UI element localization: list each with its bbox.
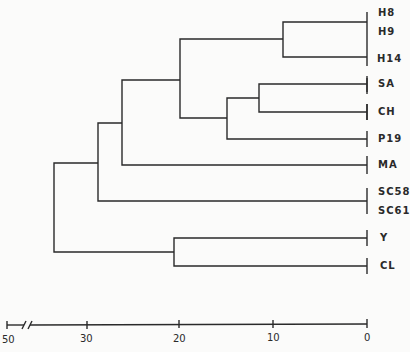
tick-label-0: 0	[364, 332, 370, 343]
tick-label-50: 50	[2, 334, 15, 345]
leaf-label-sa: SA	[378, 78, 395, 89]
leaf-label-cl: CL	[380, 260, 396, 271]
leaf-label-ma: MA	[378, 159, 398, 170]
leaf-label-ch: CH	[378, 106, 396, 117]
leaf-label-h9: H9	[378, 26, 395, 37]
tick-label-20: 20	[173, 333, 186, 344]
leaf-label-h8: H8	[378, 7, 395, 18]
leaf-label-sc58: SC58	[378, 186, 410, 197]
tick-label-10: 10	[267, 332, 280, 343]
leaf-label-sc61: SC61	[378, 205, 410, 216]
tick-label-30: 30	[80, 333, 93, 344]
branches	[54, 22, 367, 266]
leaf-label-h14: H14	[377, 53, 402, 64]
leaf-label-y: Y	[380, 232, 388, 243]
leaf-label-p19: P19	[378, 133, 402, 144]
distance-axis	[7, 319, 367, 329]
